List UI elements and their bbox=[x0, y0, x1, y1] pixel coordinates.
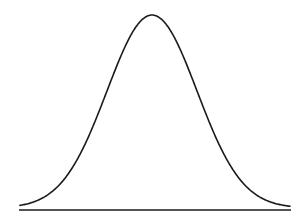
bell-curve-chart bbox=[0, 0, 306, 223]
chart-background bbox=[0, 0, 306, 223]
